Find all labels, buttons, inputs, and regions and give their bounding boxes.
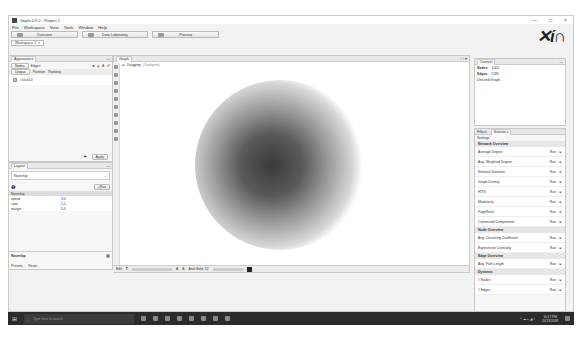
info-icon[interactable]: ⊕ — [559, 262, 562, 266]
unique-tab[interactable]: Unique — [11, 69, 30, 75]
explorer-icon[interactable] — [165, 316, 170, 321]
info-icon[interactable]: ⊕ — [559, 190, 562, 194]
ratio-field[interactable]: 1.2 — [61, 202, 66, 206]
menu-help[interactable]: Help — [98, 25, 107, 30]
run-button[interactable]: Run — [550, 170, 556, 174]
context-tab[interactable]: Context — [477, 59, 495, 65]
workspace-tab[interactable]: Workspace 1× — [11, 40, 44, 46]
apply-button[interactable]: Apply — [92, 154, 108, 160]
taskbar-search[interactable]: ◯Type here to search — [24, 314, 134, 324]
heatmap-icon[interactable] — [114, 137, 118, 141]
info-icon[interactable]: ⊕ — [559, 160, 562, 164]
minimize-panel-icon[interactable]: — — [559, 60, 563, 64]
run-layout-button[interactable]: ▷ Run — [94, 184, 110, 190]
start-icon[interactable]: ⊞ — [12, 315, 17, 322]
pencil-icon[interactable] — [114, 113, 118, 117]
appearance-tab[interactable]: Appearance — [11, 56, 36, 62]
configure-link[interactable]: (Configure) — [143, 63, 160, 67]
data-laboratory-button[interactable]: Data Laboratory — [82, 31, 149, 38]
painter-icon[interactable] — [114, 89, 118, 93]
speed-field[interactable]: 3.0 — [61, 197, 66, 201]
info-icon[interactable]: ⊕ — [559, 180, 562, 184]
info-icon[interactable]: ⊕ — [559, 220, 562, 224]
reset-button[interactable]: Reset — [28, 264, 37, 268]
overview-button[interactable]: Overview — [11, 31, 78, 38]
color-box[interactable] — [247, 267, 252, 272]
label-slider[interactable] — [213, 268, 243, 271]
info-icon[interactable]: ⊕ — [559, 288, 562, 292]
info-icon[interactable]: ⊕ — [559, 170, 562, 174]
menu-view[interactable]: View — [50, 25, 59, 30]
size-icon[interactable]: ◍ — [97, 64, 100, 68]
run-button[interactable]: Run — [550, 262, 556, 266]
store-icon[interactable] — [177, 316, 182, 321]
info-icon[interactable]: ⊕ — [559, 200, 562, 204]
info-icon[interactable]: ❶ — [11, 184, 15, 190]
run-button[interactable]: Run — [550, 288, 556, 292]
app-icon[interactable] — [201, 316, 206, 321]
layout-select[interactable]: Noverlap⌄ — [11, 171, 110, 180]
nodes-tab[interactable]: Nodes — [11, 63, 29, 69]
close-tab-icon[interactable]: × — [38, 41, 40, 45]
run-button[interactable]: Run — [550, 180, 556, 184]
color-swatch[interactable] — [13, 78, 17, 82]
layout-tab[interactable]: Layout — [11, 163, 28, 169]
maximize-button[interactable]: □ — [549, 17, 552, 23]
run-button[interactable]: Run — [550, 190, 556, 194]
info-icon[interactable]: ⊕ — [559, 278, 562, 282]
edge-pencil-icon[interactable] — [114, 121, 118, 125]
run-button[interactable]: Run — [550, 246, 556, 250]
graph-canvas[interactable] — [195, 80, 365, 250]
edge-slider[interactable] — [132, 268, 172, 271]
run-button[interactable]: Run — [550, 150, 556, 154]
presets-button[interactable]: Presets... — [11, 264, 25, 268]
run-button[interactable]: Run — [550, 220, 556, 224]
brush-icon[interactable] — [114, 105, 118, 109]
task-view-icon[interactable] — [141, 316, 146, 321]
margin-field[interactable]: 5.0 — [61, 207, 66, 211]
font-decrease-icon[interactable]: A — [176, 267, 178, 271]
rect-select-icon[interactable] — [114, 73, 118, 77]
info-icon[interactable]: ⊕ — [559, 210, 562, 214]
menu-window[interactable]: Window — [78, 25, 93, 30]
help-icon[interactable] — [106, 254, 110, 258]
shortest-path-icon[interactable] — [114, 129, 118, 133]
clock-date[interactable]: 10/13/2018 — [542, 319, 558, 323]
ranking-tab[interactable]: Ranking — [48, 70, 60, 74]
info-icon[interactable]: ⊕ — [559, 236, 562, 240]
minimize-panel-icon[interactable]: — — [106, 164, 110, 168]
preview-button[interactable]: Preview — [152, 31, 219, 38]
label-size-icon[interactable]: ᴛT — [106, 64, 110, 68]
run-button[interactable]: Run — [550, 278, 556, 282]
edge-browser-icon[interactable] — [213, 316, 218, 321]
run-button[interactable]: Run — [550, 200, 556, 204]
info-icon[interactable]: ⊕ — [559, 246, 562, 250]
gephi-taskbar-icon[interactable] — [225, 316, 230, 321]
edit-button[interactable]: Edit — [116, 267, 122, 271]
run-button[interactable]: Run — [550, 210, 556, 214]
filters-tab[interactable]: Filters — [477, 130, 487, 134]
info-icon[interactable]: ⊕ — [559, 150, 562, 154]
close-button[interactable]: × — [564, 17, 567, 23]
edges-tab[interactable]: Edges — [31, 64, 41, 68]
panel-menu-icon[interactable]: ‹ › ▾ — [461, 57, 467, 61]
menu-workspace[interactable]: Workspace — [24, 25, 45, 30]
notifications-icon[interactable] — [565, 316, 570, 321]
select-icon[interactable] — [114, 65, 118, 69]
menu-tools[interactable]: Tools — [64, 25, 74, 30]
tray-icons[interactable]: ^ ☁ ▭ ◢ ♪ — [520, 317, 535, 321]
run-button[interactable]: Run — [550, 160, 556, 164]
partition-tab[interactable]: Partition — [33, 70, 45, 74]
color-icon[interactable]: ✹ — [92, 64, 95, 68]
auto-apply-toggle[interactable]: ⇄ — [84, 155, 87, 159]
graph-tab[interactable]: Graph — [116, 56, 132, 62]
mail-icon[interactable] — [189, 316, 194, 321]
statistics-tab[interactable]: Statistics — [491, 129, 511, 135]
font-increase-icon[interactable]: A — [182, 267, 184, 271]
minimize-panel-icon[interactable]: — — [106, 57, 110, 61]
chrome-icon[interactable] — [153, 316, 158, 321]
minimize-button[interactable]: — — [532, 17, 537, 23]
menu-file[interactable]: File — [12, 25, 19, 30]
run-button[interactable]: Run — [550, 236, 556, 240]
label-color-icon[interactable]: A — [102, 64, 104, 68]
